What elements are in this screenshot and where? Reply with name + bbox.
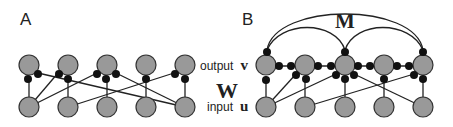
input-label: input u bbox=[207, 97, 248, 114]
input-neuron bbox=[97, 97, 117, 117]
panel-label-b: B bbox=[242, 10, 253, 29]
input-neuron bbox=[335, 97, 355, 117]
input-neuron bbox=[413, 97, 433, 117]
panel-a-output-layer bbox=[19, 55, 195, 75]
panel-b: M bbox=[256, 9, 433, 117]
panel-b-input-layer bbox=[256, 97, 433, 117]
input-neuron bbox=[374, 97, 394, 117]
layer-labels: output v W input u bbox=[200, 56, 248, 114]
output-neuron bbox=[256, 55, 276, 75]
recurrent-label-m: M bbox=[335, 9, 355, 33]
input-neuron bbox=[256, 97, 276, 117]
panel-a-input-layer bbox=[19, 97, 195, 117]
input-neuron bbox=[136, 97, 156, 117]
panel-a bbox=[19, 55, 195, 117]
output-neuron bbox=[136, 55, 156, 75]
input-neuron bbox=[175, 97, 195, 117]
output-neuron bbox=[374, 55, 394, 75]
input-neuron bbox=[295, 97, 315, 117]
network-diagram: A B bbox=[0, 0, 453, 127]
input-neuron bbox=[58, 97, 78, 117]
panel-label-a: A bbox=[20, 10, 32, 29]
output-label: output v bbox=[200, 56, 248, 73]
input-neuron bbox=[19, 97, 39, 117]
